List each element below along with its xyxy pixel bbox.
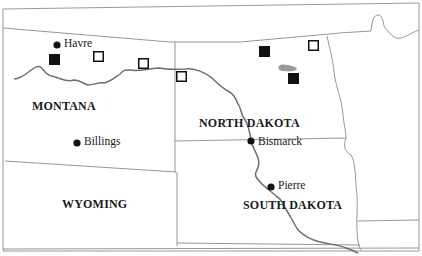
city-dot-havre: [53, 41, 60, 48]
open-square-marker: [94, 52, 104, 62]
filled-square-marker: [259, 46, 270, 57]
open-square-marker: [139, 59, 149, 69]
city-label-havre: Havre: [64, 37, 92, 49]
filled-square-marker: [49, 54, 60, 65]
city-dot-billings: [73, 139, 80, 146]
city-label-pierre: Pierre: [278, 179, 305, 191]
state-label-north-dakota: NORTH DAKOTA: [199, 116, 300, 131]
filled-square-marker: [288, 73, 299, 84]
city-dot-pierre: [267, 183, 274, 190]
city-label-billings: Billings: [84, 135, 120, 147]
city-dot-bismarck: [247, 137, 254, 144]
state-label-south-dakota: SOUTH DAKOTA: [243, 198, 342, 213]
state-label-wyoming: WYOMING: [62, 197, 127, 212]
open-square-marker: [309, 41, 319, 51]
open-square-marker: [177, 72, 187, 82]
state-label-montana: MONTANA: [32, 99, 96, 114]
city-label-bismarck: Bismarck: [258, 135, 302, 147]
